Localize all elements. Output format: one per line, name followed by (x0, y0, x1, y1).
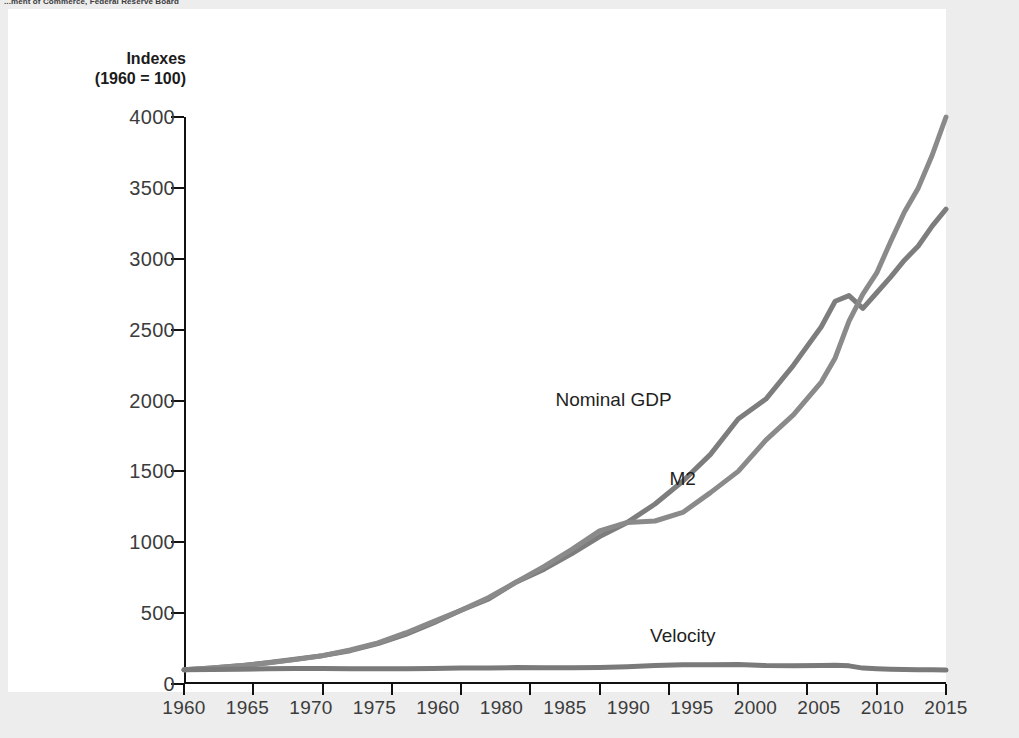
x-tick-label: 1960 (416, 697, 459, 719)
figure-page: ...ment of Commerce, Federal Reserve Boa… (0, 0, 1019, 738)
x-tick-mark (806, 684, 808, 695)
x-tick-mark (391, 684, 393, 695)
x-tick-mark (529, 684, 531, 695)
x-tick-mark (737, 684, 739, 695)
plot-area: 05001000150020002500300035004000 1960196… (184, 117, 946, 684)
x-tick-mark (322, 684, 324, 695)
x-tick-mark (252, 684, 254, 695)
x-tick-label: 1980 (480, 697, 523, 719)
x-tick-label: 1985 (543, 697, 586, 719)
x-tick-mark (599, 684, 601, 695)
series-label-m2: M2 (670, 468, 696, 490)
figure-panel: Indexes (1960 = 100) 0500100015002000250… (8, 9, 946, 692)
x-tick-label: 1995 (670, 697, 713, 719)
x-tick-label: 2005 (797, 697, 840, 719)
x-tick-mark (945, 684, 947, 695)
x-tick-mark (460, 684, 462, 695)
line-velocity (184, 664, 946, 670)
y-tick-label: 0 (164, 673, 175, 696)
y-tick-label: 2000 (129, 389, 175, 412)
series-label-velocity: Velocity (650, 625, 715, 647)
source-note: ...ment of Commerce, Federal Reserve Boa… (4, 0, 179, 7)
x-tick-label: 2000 (734, 697, 777, 719)
y-axis-title-line2: (1960 = 100) (66, 69, 186, 89)
series-label-nominal-gdp: Nominal GDP (555, 389, 671, 411)
x-tick-mark (668, 684, 670, 695)
line-nominal-gdp (184, 209, 946, 670)
y-tick-label: 1000 (129, 531, 175, 554)
x-tick-mark (183, 684, 185, 695)
y-tick-label: 1500 (129, 460, 175, 483)
x-tick-label: 1965 (226, 697, 269, 719)
y-tick-label: 500 (141, 602, 175, 625)
x-tick-label: 1975 (353, 697, 396, 719)
x-tick-label: 1970 (289, 697, 332, 719)
y-axis-title: Indexes (1960 = 100) (66, 49, 186, 89)
y-tick-label: 3500 (129, 176, 175, 199)
x-tick-label: 1990 (607, 697, 650, 719)
y-axis-title-line1: Indexes (66, 49, 186, 69)
x-tick-label: 2010 (861, 697, 904, 719)
y-tick-label: 3000 (129, 247, 175, 270)
x-tick-label: 1960 (162, 697, 205, 719)
y-tick-label: 4000 (129, 106, 175, 129)
x-tick-mark (876, 684, 878, 695)
x-tick-label: 2015 (924, 697, 967, 719)
y-tick-label: 2500 (129, 318, 175, 341)
